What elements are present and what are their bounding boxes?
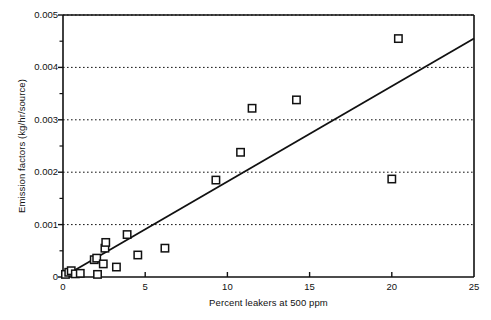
x-tick-label: 5	[130, 282, 160, 292]
y-tick-label: 0.004	[22, 62, 58, 72]
y-tick-label: 0	[22, 272, 58, 282]
y-tick-label-text: 0	[22, 272, 58, 282]
x-tick-label-text: 0	[48, 282, 78, 292]
y-tick-label: 0.002	[22, 167, 58, 177]
data-point-marker	[77, 270, 84, 277]
x-tick-label-text: 10	[212, 282, 242, 292]
data-point-marker	[113, 263, 120, 270]
fit-line	[63, 39, 474, 277]
x-tick-label: 25	[459, 282, 489, 292]
x-tick-label-text: 25	[459, 282, 489, 292]
data-point-marker	[161, 244, 168, 251]
y-tick-label-text: 0.001	[22, 220, 58, 230]
x-axis-label: Percent leakers at 500 ppm	[63, 297, 474, 308]
data-point-marker	[123, 231, 130, 238]
x-tick-label-text: 15	[295, 282, 325, 292]
data-point-marker	[102, 239, 109, 246]
data-point-marker	[212, 176, 219, 183]
x-tick-label: 20	[377, 282, 407, 292]
y-tick-label-text: 0.002	[22, 167, 58, 177]
y-tick-label: 0.003	[22, 115, 58, 125]
x-tick-label-text: 20	[377, 282, 407, 292]
y-tick-label: 0.001	[22, 220, 58, 230]
data-point-marker	[395, 35, 402, 42]
chart-figure: Emission factors (kg/hr/source) Percent …	[0, 0, 491, 320]
x-tick-label: 15	[295, 282, 325, 292]
scatter-plot-canvas	[0, 0, 491, 320]
data-point-marker	[237, 149, 244, 156]
x-tick-label: 10	[212, 282, 242, 292]
y-tick-label-text: 0.004	[22, 62, 58, 72]
data-point-marker	[100, 260, 107, 267]
data-point-marker	[248, 105, 255, 112]
x-tick-label: 0	[48, 282, 78, 292]
y-tick-label: 0.005	[22, 10, 58, 20]
data-point-marker	[134, 251, 141, 258]
y-tick-label-text: 0.003	[22, 115, 58, 125]
y-axis-label: Emission factors (kg/hr/source)	[14, 15, 30, 277]
data-point-marker	[94, 271, 101, 278]
x-tick-label-text: 5	[130, 282, 160, 292]
data-point-marker	[293, 96, 300, 103]
y-tick-label-text: 0.005	[22, 10, 58, 20]
data-point-marker	[388, 175, 395, 182]
